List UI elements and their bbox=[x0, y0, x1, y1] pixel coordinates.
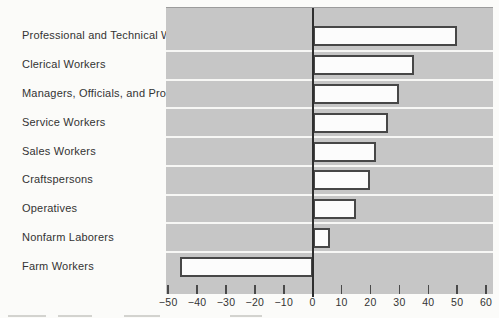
category-label: Clerical Workers bbox=[22, 57, 106, 71]
category-label: Farm Workers bbox=[22, 259, 94, 273]
x-tick bbox=[370, 285, 372, 294]
category-label: Service Workers bbox=[22, 115, 105, 129]
bar-8 bbox=[313, 228, 330, 248]
row-separator bbox=[166, 165, 493, 167]
bar-1 bbox=[313, 26, 458, 46]
category-label: Craftspersons bbox=[22, 172, 93, 186]
x-tick bbox=[196, 285, 198, 294]
bar-5 bbox=[313, 142, 377, 162]
row-separator bbox=[166, 50, 493, 52]
x-tick-label: −20 bbox=[246, 296, 265, 308]
row-separator bbox=[166, 136, 493, 138]
x-tick bbox=[341, 285, 343, 294]
x-tick bbox=[456, 285, 458, 294]
x-tick-label: 60 bbox=[480, 296, 492, 308]
bar-7 bbox=[313, 199, 356, 219]
bar-2 bbox=[313, 55, 414, 75]
x-tick-label: −40 bbox=[188, 296, 207, 308]
category-label: Operatives bbox=[22, 201, 77, 215]
x-tick bbox=[428, 285, 430, 294]
x-tick bbox=[167, 285, 169, 294]
x-tick bbox=[225, 285, 227, 294]
x-tick-label: 40 bbox=[422, 296, 434, 308]
x-tick-label: −30 bbox=[217, 296, 236, 308]
zero-axis-line bbox=[312, 8, 314, 297]
x-tick bbox=[485, 285, 487, 294]
x-tick-label: 0 bbox=[310, 296, 316, 308]
category-label: Nonfarm Laborers bbox=[22, 230, 114, 244]
bar-6 bbox=[313, 170, 371, 190]
occupation-change-bar-chart: Professional and Technical WorkersCleric… bbox=[0, 0, 499, 318]
category-label: Sales Workers bbox=[22, 144, 96, 158]
bar-3 bbox=[313, 84, 400, 104]
x-tick-label: −10 bbox=[274, 296, 293, 308]
bar-4 bbox=[313, 113, 388, 133]
plot-area bbox=[166, 7, 493, 294]
row-separator bbox=[166, 194, 493, 196]
x-tick-label: 50 bbox=[451, 296, 463, 308]
x-tick bbox=[399, 285, 401, 294]
row-separator bbox=[166, 222, 493, 224]
x-tick-label: 10 bbox=[335, 296, 347, 308]
x-tick-label: 20 bbox=[364, 296, 376, 308]
x-tick-label: 30 bbox=[393, 296, 405, 308]
row-separator bbox=[166, 79, 493, 81]
row-separator bbox=[166, 251, 493, 253]
x-tick bbox=[283, 285, 285, 294]
x-tick-label: −50 bbox=[159, 296, 178, 308]
x-tick bbox=[254, 285, 256, 294]
bar-9 bbox=[180, 257, 313, 277]
row-separator bbox=[166, 107, 493, 109]
